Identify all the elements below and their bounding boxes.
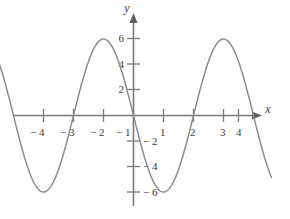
x-tick-label-1: 1 (160, 126, 166, 138)
graph-figure: x y − 4 − 3 − 2 − 1 1 2 3 4 (0, 0, 290, 219)
y-tick-label--6: − 6 (143, 186, 158, 198)
x-tick-label-4: 4 (236, 126, 242, 138)
y-tick-label-2: 2 (119, 83, 125, 95)
x-tick-label--3: − 3 (60, 126, 75, 138)
y-tick-label--2: − 2 (143, 135, 157, 147)
sine-curve-plot: x y − 4 − 3 − 2 − 1 1 2 3 4 (0, 0, 290, 219)
y-tick-label-6: 6 (119, 32, 125, 44)
x-axis-label: x (264, 102, 271, 116)
x-tick-label--4: − 4 (30, 126, 45, 138)
x-tick-label--2: − 2 (90, 126, 104, 138)
y-axis-label: y (123, 1, 130, 15)
x-tick-label--1: − 1 (116, 126, 130, 138)
x-tick-label-3: 3 (220, 126, 226, 138)
